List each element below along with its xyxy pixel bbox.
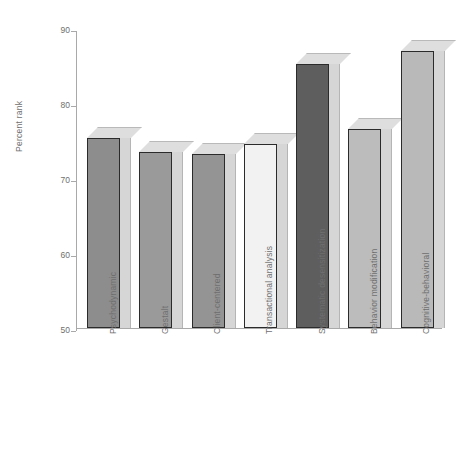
x-axis-line	[76, 328, 442, 329]
bar-top-face	[244, 133, 299, 144]
y-tick-label: 70	[61, 175, 70, 185]
category-label: Psychodynamic	[108, 272, 118, 334]
bar-top-face	[87, 127, 142, 138]
bar-side-face	[434, 51, 445, 329]
bar-top-face	[401, 40, 456, 51]
bar-side-face	[225, 154, 236, 328]
bar-side-face	[120, 138, 131, 328]
y-tick-mark	[71, 331, 76, 332]
plot-area: 9080706050 PsychodynamicGestaltClient-ce…	[76, 28, 442, 331]
y-tick-label: 60	[61, 250, 70, 260]
category-label: Behavior modification	[369, 249, 379, 334]
bar-front-face	[139, 152, 172, 328]
bar-side-face	[381, 129, 392, 329]
y-tick-mark	[71, 106, 76, 107]
bar-top-face	[348, 118, 403, 129]
y-tick-label: 50	[61, 325, 70, 335]
y-tick-mark	[71, 181, 76, 182]
bar-top-face	[139, 141, 194, 152]
y-tick-mark	[71, 256, 76, 257]
y-tick-mark	[71, 31, 76, 32]
y-axis-label: Percent rank	[14, 32, 24, 152]
y-axis-line	[76, 31, 77, 331]
category-label: Cognitive-behavioral	[421, 253, 431, 335]
bar-top-face	[296, 53, 351, 64]
category-label: Gestalt	[160, 306, 170, 334]
y-tick-label: 90	[61, 25, 70, 35]
bar-side-face	[172, 152, 183, 328]
category-label: Transactional analysis	[264, 246, 274, 334]
bar-top-face	[192, 143, 247, 154]
y-tick-label: 80	[61, 100, 70, 110]
bar-side-face	[329, 64, 340, 328]
bar-side-face	[277, 144, 288, 329]
category-label: Systematic desensitization	[317, 229, 327, 334]
bar[interactable]	[139, 152, 172, 328]
category-label: Client-centered	[212, 273, 222, 334]
